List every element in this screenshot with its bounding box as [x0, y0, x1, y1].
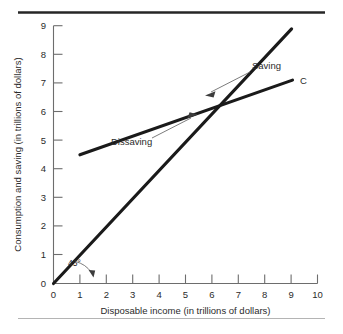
y-tick-label-6: 6: [41, 106, 46, 117]
x-tick-label-0: 0: [51, 289, 56, 300]
y-tick-label-5: 5: [41, 135, 46, 146]
y-tick-label-7: 7: [41, 77, 46, 88]
x-tick-label-3: 3: [130, 289, 135, 300]
saving-label: Saving: [252, 60, 281, 71]
x-tick-label-4: 4: [156, 289, 161, 300]
y-axis-title: Consumption and saving (in trillions of …: [12, 57, 23, 251]
y-tick-label-9: 9: [41, 20, 46, 31]
y-tick-label-2: 2: [41, 220, 46, 231]
x-tick-label-1: 1: [77, 289, 82, 300]
consumption-line-label: C: [300, 75, 307, 86]
y-tick-label-1: 1: [41, 249, 46, 260]
x-tick-label-9: 9: [288, 289, 293, 300]
x-tick-label-6: 6: [209, 289, 214, 300]
x-tick-label-2: 2: [104, 289, 109, 300]
y-tick-label-8: 8: [41, 49, 46, 60]
consumption-saving-chart: 9 8 7 6 5 4 3 2 1 0 0 1 2: [0, 0, 343, 334]
dissaving-label: Dissaving: [111, 136, 152, 147]
x-tick-label-8: 8: [262, 289, 267, 300]
x-tick-label-10: 10: [312, 289, 323, 300]
y-tick-label-4: 4: [41, 163, 46, 174]
y-tick-label-3: 3: [41, 192, 46, 203]
x-tick-label-7: 7: [236, 289, 241, 300]
figure-container: 9 8 7 6 5 4 3 2 1 0 0 1 2: [0, 0, 343, 334]
x-axis-title: Disposable income (in trillions of dolla…: [100, 305, 270, 316]
y-tick-label-0: 0: [41, 278, 46, 289]
x-tick-label-5: 5: [183, 289, 188, 300]
